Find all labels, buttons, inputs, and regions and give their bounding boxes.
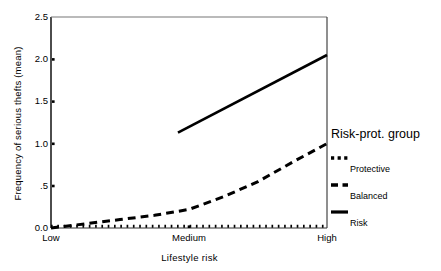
chart-figure: Frequency of serious thefts (mean) 0.0.5… [0,0,441,271]
data-series-group [51,55,327,228]
legend-title: Risk-prot. group [331,127,420,141]
series-line-risk [178,55,327,133]
legend-label-risk: Risk [350,218,368,228]
legend-markers [331,158,348,212]
legend-label-protective: Protective [350,164,390,174]
y-tick-marks [52,58,55,187]
legend-label-balanced: Balanced [350,191,388,201]
series-line-balanced [51,144,327,228]
axis-frame [51,17,327,228]
